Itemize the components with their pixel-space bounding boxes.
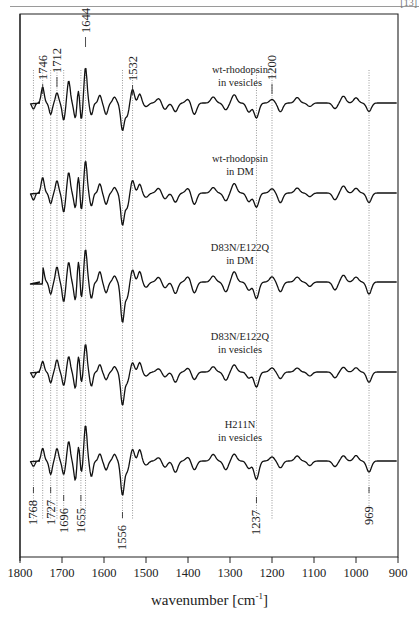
x-tick-label: 1200	[260, 566, 285, 580]
annotation-top-1200: 1200	[265, 55, 279, 80]
x-tick-label: 1300	[218, 566, 243, 580]
series-label-2-line1: wt-rhodopsin	[212, 153, 269, 164]
annotation-top-1746: 1746	[36, 55, 50, 80]
series-label-5-line2: in vesicles	[218, 432, 262, 443]
annotation-bottom-1727: 1727	[44, 500, 58, 525]
annotation-top-1532: 1532	[126, 56, 140, 81]
ftir-difference-spectra-chart: 180017001600150014001300120011001000900w…	[0, 0, 419, 620]
x-axis-label-bracket: ]	[263, 592, 268, 608]
series-label-3-line1: D83N/E122Q	[211, 242, 270, 253]
annotation-bottom-1768: 1768	[26, 500, 40, 525]
annotation-bottom-1655: 1655	[74, 508, 88, 533]
x-tick-label: 1100	[302, 566, 327, 580]
series-label-1-line1: wt-rhodopsin	[212, 64, 269, 75]
annotation-bottom-969: 969	[362, 506, 376, 525]
series-label-4-line1: D83N/E122Q	[211, 331, 270, 342]
series-label-5-line1: H211N	[225, 419, 256, 430]
series-label-4-line2: in vesicles	[218, 344, 262, 355]
x-axis-label: wavenumber [cm-1]	[0, 591, 419, 609]
x-tick-label: 1600	[92, 566, 117, 580]
x-tick-label: 1400	[176, 566, 201, 580]
x-tick-label: 1500	[134, 566, 159, 580]
annotation-top-1712: 1712	[50, 48, 64, 73]
x-axis-label-superscript: -1	[256, 591, 264, 601]
annotation-bottom-1696: 1696	[57, 508, 71, 533]
x-tick-label: 1800	[8, 566, 33, 580]
x-axis-label-text: wavenumber [cm	[151, 592, 256, 608]
annotation-top-1644: 1644	[79, 7, 93, 33]
series-label-2-line2: in DM	[226, 166, 254, 177]
series-label-1-line2: in vesicles	[218, 77, 262, 88]
annotation-bottom-1556: 1556	[115, 525, 129, 550]
x-tick-label: 1700	[50, 566, 75, 580]
x-tick-label: 1000	[344, 566, 369, 580]
x-tick-label: 900	[389, 566, 408, 580]
annotation-bottom-1237: 1237	[249, 510, 263, 535]
series-label-3-line2: in DM	[226, 255, 254, 266]
